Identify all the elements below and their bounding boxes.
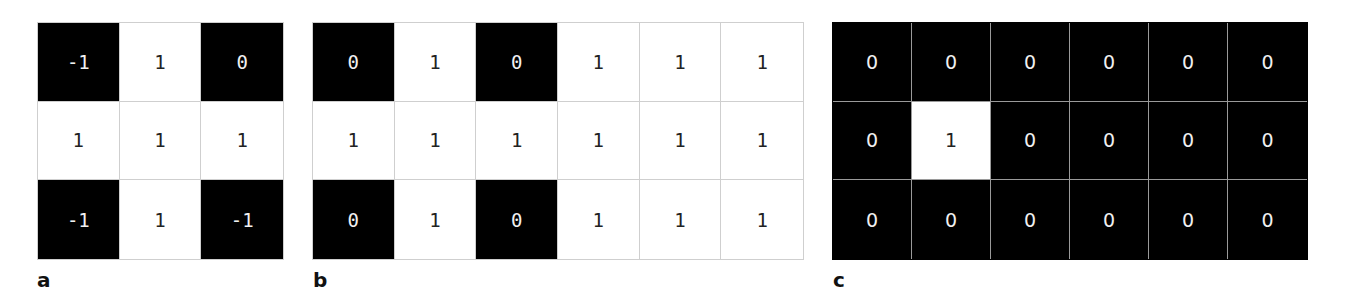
grid-cell: 0 — [476, 180, 558, 259]
grid-cell: 1 — [558, 102, 640, 181]
grid-cell: 0 — [1149, 102, 1228, 181]
grid-cell: 1 — [120, 180, 202, 259]
grid-cell: 0 — [476, 23, 558, 102]
grid-cell: 1 — [313, 102, 395, 181]
grid-cell: -1 — [201, 180, 283, 259]
panel-b-label: b — [313, 268, 327, 292]
grid-cell: 0 — [201, 23, 283, 102]
grid-cell: 1 — [721, 180, 803, 259]
grid-cell: 1 — [120, 102, 202, 181]
grid-cell: 0 — [1149, 23, 1228, 102]
grid-cell: 1 — [640, 23, 722, 102]
grid-cell: 0 — [1228, 180, 1307, 259]
grid-cell: 1 — [912, 102, 991, 181]
grid-cell: 0 — [1070, 180, 1149, 259]
grid-cell: 1 — [640, 180, 722, 259]
panel-a-label: a — [37, 268, 51, 292]
grid-cell: 0 — [313, 180, 395, 259]
grid-cell: 0 — [912, 23, 991, 102]
grid-cell: 1 — [476, 102, 558, 181]
grid-cell: 0 — [991, 23, 1070, 102]
grid-cell: 1 — [721, 102, 803, 181]
panel-c-label: c — [833, 268, 845, 292]
grid-cell: 1 — [201, 102, 283, 181]
grid-cell: 0 — [1228, 23, 1307, 102]
grid-cell: 0 — [912, 180, 991, 259]
panel-c-grid: 000000010000000000 — [832, 22, 1308, 260]
grid-cell: 1 — [120, 23, 202, 102]
grid-cell: 1 — [395, 102, 477, 181]
grid-cell: -1 — [38, 180, 120, 259]
grid-cell: 0 — [1070, 23, 1149, 102]
grid-cell: 1 — [558, 180, 640, 259]
grid-cell: 0 — [833, 180, 912, 259]
grid-cell: 1 — [721, 23, 803, 102]
grid-cell: 1 — [640, 102, 722, 181]
grid-cell: 1 — [558, 23, 640, 102]
grid-cell: 1 — [395, 180, 477, 259]
grid-cell: 0 — [1070, 102, 1149, 181]
panel-a-grid: -110111-11-1 — [37, 22, 284, 260]
grid-cell: 1 — [395, 23, 477, 102]
grid-cell: -1 — [38, 23, 120, 102]
grid-cell: 0 — [1228, 102, 1307, 181]
grid-cell: 0 — [313, 23, 395, 102]
grid-cell: 0 — [833, 102, 912, 181]
panel-b-grid: 010111111111010111 — [312, 22, 804, 260]
grid-cell: 0 — [991, 102, 1070, 181]
grid-cell: 0 — [991, 180, 1070, 259]
grid-cell: 0 — [833, 23, 912, 102]
grid-cell: 1 — [38, 102, 120, 181]
grid-cell: 0 — [1149, 180, 1228, 259]
